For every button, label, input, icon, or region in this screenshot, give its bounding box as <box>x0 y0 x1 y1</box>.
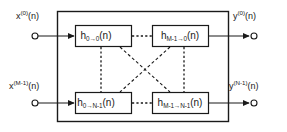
block-label-h-0-0: h0→0(n) <box>81 31 112 41</box>
block-label-h-m1-n1-h: h <box>158 97 164 108</box>
output-label-n1: y(N-1)(n) <box>229 82 259 91</box>
output-terminal-n1[interactable] <box>251 100 257 106</box>
input-terminal-0[interactable] <box>32 33 38 39</box>
block-label-h-m1-0-sub: M-1→0 <box>166 35 186 42</box>
block-label-h-0-n1-tail: (n) <box>103 97 115 108</box>
block-label-h-0-0-h: h <box>81 30 87 41</box>
output-label-n1-tail: (n) <box>248 81 259 91</box>
input-label-0-superscript: (0) <box>21 9 29 16</box>
conn-diagonal-2 <box>120 47 170 92</box>
block-label-h-m1-0: hM-1→0(n) <box>161 31 199 41</box>
block-label-h-0-n1-h: h <box>77 97 83 108</box>
input-label-m1-tail: (n) <box>28 81 39 91</box>
block-label-h-m1-n1-sub: M-1→N-1 <box>163 102 190 109</box>
output-label-n1-superscript: (N-1) <box>234 79 248 86</box>
block-label-h-0-0-sub: 0→0 <box>86 35 99 42</box>
block-label-h-m1-0-h: h <box>161 30 167 41</box>
input-label-m1-superscript: (M-1) <box>14 79 29 86</box>
block-label-h-m1-n1: hM-1→N-1(n) <box>158 98 203 108</box>
block-label-h-m1-0-tail: (n) <box>187 30 199 41</box>
block-label-h-m1-n1-tail: (n) <box>190 97 202 108</box>
block-label-h-0-n1-sub: 0→N-1 <box>83 102 103 109</box>
input-label-m1: x(M-1)(n) <box>9 82 39 91</box>
input-label-0: x(0)(n) <box>16 12 39 21</box>
output-terminal-0[interactable] <box>251 33 257 39</box>
output-label-0-tail: (n) <box>245 11 256 21</box>
block-label-h-0-n1: h0→N-1(n) <box>77 98 115 108</box>
output-label-0: y(0)(n) <box>233 12 256 21</box>
input-terminal-m1[interactable] <box>32 100 38 106</box>
output-label-0-superscript: (0) <box>238 9 246 16</box>
block-label-h-0-0-tail: (n) <box>99 30 111 41</box>
diagram-root: x(0)(n) x(M-1)(n) y(0)(n) y(N-1)(n) h0→0… <box>0 0 287 132</box>
input-label-0-tail: (n) <box>28 11 39 21</box>
